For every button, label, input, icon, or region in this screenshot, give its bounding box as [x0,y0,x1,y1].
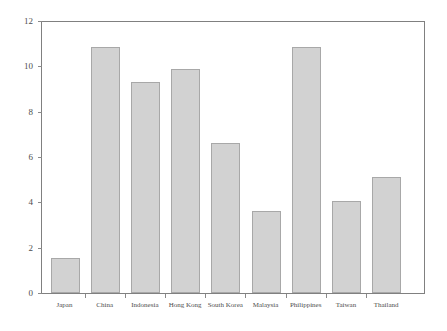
x-axis-tick-label: Malaysia [253,301,280,309]
x-axis-label-group: JapanChinaIndonesiaHong KongSouth KoreaM… [57,301,400,309]
x-axis-tick-group [86,294,367,298]
bar[interactable] [92,48,120,293]
x-axis-tick-label: South Korea [208,301,244,309]
bar[interactable] [172,70,200,293]
x-axis-tick-label: Indonesia [131,301,159,309]
bar-chart-figure: 024681012 JapanChinaIndonesiaHong KongSo… [0,0,447,331]
x-axis-tick-label: Japan [57,301,73,309]
bar[interactable] [293,48,321,293]
y-axis-tick-label: 8 [29,107,34,117]
bar[interactable] [212,144,240,293]
y-axis-tick-label: 6 [29,152,34,162]
y-axis-tick-label: 0 [29,288,34,298]
bar[interactable] [132,83,160,293]
x-axis-tick-label: Taiwan [336,301,357,309]
x-axis-tick-label: Philippines [290,301,322,309]
y-axis-tick-label: 2 [29,243,34,253]
chart-canvas: 024681012 JapanChinaIndonesiaHong KongSo… [0,0,447,331]
bar[interactable] [333,202,361,293]
bar[interactable] [253,212,281,293]
bar[interactable] [373,178,401,293]
x-axis-tick-label: China [96,301,114,309]
y-axis-tick-label: 4 [29,197,34,207]
y-axis-tick-label: 12 [24,16,33,26]
y-axis-label-group: 024681012 [24,16,34,298]
bar-series-group [52,48,401,293]
y-axis-tick-label: 10 [24,61,34,71]
x-axis-tick-label: Hong Kong [169,301,202,309]
y-axis-tick-group [38,22,42,294]
x-axis-tick-label: Thailand [374,301,399,309]
bar[interactable] [52,259,80,293]
